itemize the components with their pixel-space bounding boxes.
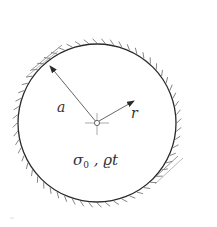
- coordinate-r-arrow: [99, 101, 134, 121]
- tangent-line-upper-left: [30, 45, 62, 71]
- clamped-circular-plate-diagram: a r σ0 , ϱt: [0, 0, 217, 227]
- radius-label: a: [57, 99, 65, 115]
- tangent-line-upper-left-2: [26, 51, 58, 77]
- coordinate-label: r: [131, 105, 139, 121]
- center-point-icon: [85, 113, 109, 135]
- parameters-label: σ0 , ϱt: [73, 151, 119, 170]
